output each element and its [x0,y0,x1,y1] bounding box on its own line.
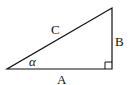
label-hypotenuse: C [51,23,60,36]
triangle-diagram: C B A α [0,0,129,85]
label-opposite: B [115,35,124,48]
label-angle: α [29,55,36,68]
triangle-outline [7,8,112,69]
right-angle-marker [105,62,112,69]
label-adjacent: A [57,73,66,85]
